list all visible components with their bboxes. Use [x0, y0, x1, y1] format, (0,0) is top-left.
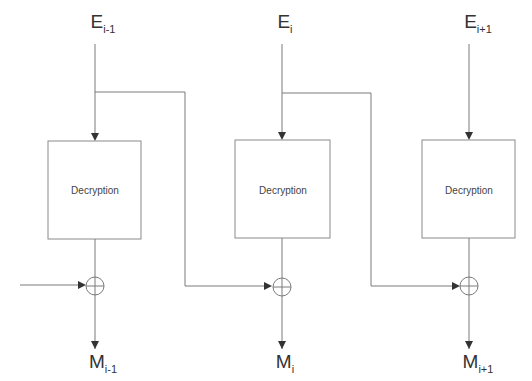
arrowhead-icon	[91, 133, 99, 141]
decryption-label-3: Decryption	[445, 185, 493, 196]
arrowhead-icon	[452, 282, 460, 290]
arrowhead-icon	[278, 132, 286, 140]
decryption-label-2: Decryption	[259, 185, 307, 196]
arrowhead-icon	[264, 282, 272, 290]
input-label-e-i: Ei	[277, 12, 292, 31]
xor-icon	[460, 277, 478, 295]
xor-icon	[273, 278, 291, 296]
output-label-m-i-plus-1: Mi+1	[463, 352, 494, 371]
arrowhead-icon	[465, 341, 473, 349]
input-label-e-i-plus-1: Ei+1	[464, 12, 492, 31]
decryption-label-1: Decryption	[71, 185, 119, 196]
output-label-m-i: Mi	[276, 352, 294, 371]
xor-icon	[86, 277, 104, 295]
arrowhead-icon	[465, 132, 473, 140]
arrowhead-icon	[278, 341, 286, 349]
input-label-e-i-minus-1: Ei-1	[91, 12, 116, 31]
output-label-m-i-minus-1: Mi-1	[89, 352, 117, 371]
arrowhead-icon	[91, 341, 99, 349]
arrowhead-icon	[78, 281, 86, 289]
